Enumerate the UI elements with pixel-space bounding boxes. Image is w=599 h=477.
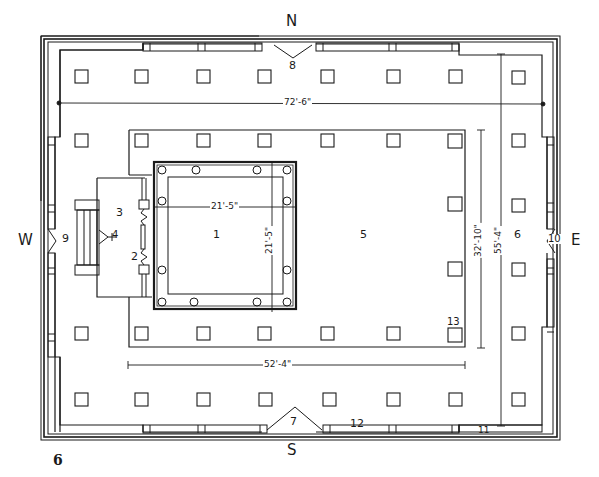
compass-south: S bbox=[287, 443, 297, 458]
figure-number: 6 bbox=[53, 453, 63, 467]
compass-west: W bbox=[18, 233, 33, 248]
room-label-13: 13 bbox=[447, 317, 460, 327]
floor-plan-drawing bbox=[0, 0, 599, 477]
room-label-12: 12 bbox=[350, 418, 364, 429]
compass-east: E bbox=[571, 233, 580, 248]
sanctum-outer bbox=[154, 162, 296, 309]
dimension-overall-depth: 55'-4" bbox=[494, 226, 503, 255]
room-label-3: 3 bbox=[116, 207, 123, 218]
pillars bbox=[75, 70, 525, 406]
room-label-11: 11 bbox=[478, 426, 489, 435]
compass-north: N bbox=[286, 14, 297, 29]
dimension-inner-hall-width: 52'-4" bbox=[263, 360, 292, 369]
dimension-overall-width: 72'-6" bbox=[283, 98, 312, 107]
dimension-inner-hall-depth: 32'-10" bbox=[474, 223, 483, 258]
room-label-6: 6 bbox=[514, 229, 521, 240]
room-label-10: 10 bbox=[548, 234, 561, 244]
room-label-2: 2 bbox=[131, 251, 138, 262]
room-label-7: 7 bbox=[290, 416, 297, 427]
room-label-9: 9 bbox=[62, 233, 69, 244]
room-label-4: 4 bbox=[112, 230, 118, 240]
dimension-sanctum-width: 21'-5" bbox=[210, 202, 239, 211]
room-label-1: 1 bbox=[213, 229, 220, 240]
dimension-sanctum-depth: 21'-5" bbox=[265, 226, 274, 255]
room-label-8: 8 bbox=[289, 60, 296, 71]
room-label-5: 5 bbox=[360, 229, 367, 240]
